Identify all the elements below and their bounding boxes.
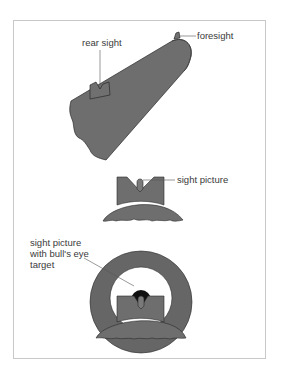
foresight-label: foresight xyxy=(197,30,234,41)
bulls-eye-label-line2: with bull's eye xyxy=(29,248,89,259)
sight-picture-label: sight picture xyxy=(177,174,228,185)
foresight-post-bottom xyxy=(138,296,144,309)
foresight-shape xyxy=(174,32,180,39)
target-mound-middle xyxy=(103,205,183,222)
bulls-eye-label-line1: sight picture xyxy=(30,237,81,248)
bulls-eye-label-line3: target xyxy=(30,259,55,270)
barrel-shape xyxy=(70,39,192,160)
bulls-eye-sight-picture-illustration xyxy=(90,251,192,353)
gun-barrel-illustration xyxy=(70,32,192,160)
gun-sight-diagram: rear sight foresight sight picture sight… xyxy=(0,0,282,376)
rear-sight-label: rear sight xyxy=(82,37,122,48)
sight-picture-illustration xyxy=(103,177,183,221)
foresight-post-middle xyxy=(137,179,143,192)
